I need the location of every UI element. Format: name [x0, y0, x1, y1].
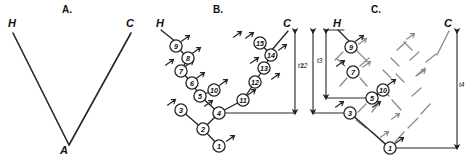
panel-c-ghost-branch [392, 100, 401, 110]
panel-a-branch-0 [13, 33, 69, 145]
node-label: 14 [267, 51, 275, 60]
mutation-tick-icon [182, 35, 190, 41]
panel-a-group [13, 33, 131, 145]
node-label: 13 [260, 64, 268, 73]
panel-c-ghost-branch [421, 104, 430, 114]
tree-node-9[interactable]: 9 [345, 41, 357, 53]
node-label: 3 [179, 106, 183, 115]
tree-node-13[interactable]: 13 [258, 62, 270, 74]
panel-c-tip-branch-C [437, 31, 449, 55]
mutation-tick-icon [246, 32, 254, 38]
panel-c-branch [350, 113, 390, 148]
node-label: 1 [217, 142, 221, 151]
tree-node-12[interactable]: 12 [249, 76, 261, 88]
panel-c-ghost-branch [412, 88, 421, 96]
mutation-tick-icon [227, 135, 235, 141]
node-label: 10 [210, 86, 218, 95]
panel-c-ghost-branch [404, 42, 412, 50]
panel-a-branch-1 [69, 33, 131, 145]
tree-node-10[interactable]: 10 [377, 84, 389, 96]
node-label: 12 [251, 78, 259, 87]
mutation-tick-icon [168, 99, 176, 105]
ghost-mutation-tick-icon [392, 113, 400, 119]
mutation-tick-icon [336, 101, 344, 107]
node-label: 11 [239, 96, 246, 105]
mutation-tick-icon [388, 79, 396, 85]
node-label: 3 [348, 109, 352, 118]
panel-c-ghost-branch [391, 58, 399, 66]
panel-b-group: 123456789101112131415 [161, 30, 295, 152]
node-label: 8 [186, 54, 190, 63]
panel-c-ghost-branch [356, 120, 366, 128]
mutation-tick-icon [166, 59, 174, 65]
panel-c-group: 1357910 [313, 30, 457, 154]
tree-node-10[interactable]: 10 [208, 84, 220, 96]
tree-node-3[interactable]: 3 [175, 104, 187, 116]
node-label: 1 [388, 144, 392, 153]
tree-node-5[interactable]: 5 [194, 90, 206, 102]
node-label: 15 [256, 39, 265, 48]
tree-node-4[interactable]: 4 [213, 107, 225, 119]
tree-node-3[interactable]: 3 [344, 107, 356, 119]
mutation-tick-icon [193, 47, 201, 53]
panel-c-ghost-branch [340, 78, 347, 86]
node-label: 10 [379, 86, 387, 95]
panel-c-ghost-branch [358, 104, 366, 112]
panel-c-ghost-branch [408, 118, 418, 128]
panel-c-ghost-branch [410, 52, 419, 60]
tree-node-7[interactable]: 7 [175, 65, 187, 77]
node-label: 9 [174, 42, 178, 51]
mutation-tick-icon [356, 35, 364, 41]
tree-node-1[interactable]: 1 [213, 140, 225, 152]
tree-node-1[interactable]: 1 [384, 142, 396, 154]
panel-c-ghost-branch [383, 70, 391, 78]
panel-c-ghost-branch [357, 51, 366, 60]
panel-c-ghost-branch [426, 54, 436, 62]
tree-node-5[interactable]: 5 [366, 92, 378, 104]
panel-c-ghost-branch [335, 52, 343, 60]
mutation-tick-icon [251, 57, 259, 63]
tree-node-11[interactable]: 11 [237, 94, 249, 106]
mutation-tick-icon [234, 31, 242, 37]
tree-node-7[interactable]: 7 [347, 66, 359, 78]
node-label: 2 [200, 125, 205, 134]
mutation-tick-icon [272, 73, 280, 79]
tree-node-15[interactable]: 15 [254, 37, 266, 49]
ghost-mutation-tick-icon [381, 131, 389, 137]
tree-node-2[interactable]: 2 [197, 123, 209, 135]
panel-c-ghost-branch [396, 74, 404, 82]
panel-c-ghost-branch [360, 78, 367, 86]
tree-node-6[interactable]: 6 [186, 77, 198, 89]
node-label: 9 [349, 43, 353, 52]
mutation-tick-icon [279, 44, 287, 50]
mutation-tick-icon [197, 72, 205, 78]
phylogenetic-tree-figure: A. B. C. H C A H C H C t1 t2 t3 t4 12345… [0, 0, 471, 166]
tree-node-8[interactable]: 8 [182, 52, 194, 64]
node-label: 4 [216, 109, 221, 118]
tree-node-14[interactable]: 14 [265, 49, 277, 61]
tree-node-9[interactable]: 9 [170, 40, 182, 52]
tree-canvas: 123456789101112131415 1357910 [0, 0, 471, 166]
mutation-tick-icon [220, 79, 228, 85]
ghost-mutation-tick-icon [407, 33, 415, 39]
